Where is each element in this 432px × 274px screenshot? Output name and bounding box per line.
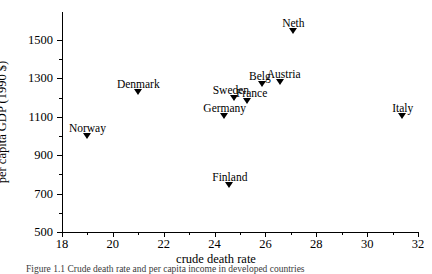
y-tick-minor	[59, 213, 62, 214]
y-tick	[57, 78, 62, 79]
x-tick-minor	[393, 232, 394, 235]
data-point-label: France	[236, 88, 267, 100]
y-tick	[57, 194, 62, 195]
x-tick-label: 26	[245, 238, 285, 251]
x-tick-label: 22	[144, 238, 184, 251]
x-tick-minor	[342, 232, 343, 235]
data-point-label: Denmark	[117, 79, 160, 91]
y-tick-minor	[59, 98, 62, 99]
x-tick-label: 30	[347, 238, 387, 251]
data-point-label: Finland	[212, 172, 247, 184]
x-tick-minor	[189, 232, 190, 235]
data-point-label: Neth	[282, 18, 304, 30]
figure-caption: Figure 1.1 Crude death rate and per capi…	[26, 264, 422, 274]
x-tick-label: 28	[296, 238, 336, 251]
y-tick-label: 1500	[28, 34, 53, 47]
data-point-label: Germany	[203, 103, 246, 115]
y-tick-label: 700	[34, 188, 53, 201]
y-tick	[57, 117, 62, 118]
x-tick-label: 24	[195, 238, 235, 251]
data-point-label: Norway	[69, 123, 106, 135]
y-tick-label: 500	[34, 226, 53, 239]
x-tick-minor	[87, 232, 88, 235]
x-tick-label: 20	[93, 238, 133, 251]
y-tick-label: 1100	[28, 111, 53, 124]
y-tick-label: 900	[34, 149, 53, 162]
y-tick-label: 1300	[28, 72, 53, 85]
data-point-label: Austria	[267, 69, 301, 81]
scatter-plot: 500700900110013001500 1820222426283032 N…	[0, 0, 432, 274]
x-tick-minor	[291, 232, 292, 235]
y-tick-minor	[59, 136, 62, 137]
y-tick	[57, 40, 62, 41]
x-tick-minor	[138, 232, 139, 235]
data-point-label: Italy	[392, 103, 413, 115]
x-tick-minor	[240, 232, 241, 235]
y-tick	[57, 155, 62, 156]
y-tick-minor	[59, 174, 62, 175]
y-tick-minor	[59, 59, 62, 60]
x-tick-label: 18	[42, 238, 82, 251]
y-axis-title-text: per capita GDP (1990 $)	[0, 61, 9, 183]
y-axis-title: per capita GDP (1990 $)	[0, 0, 9, 122]
y-axis-line	[62, 12, 63, 232]
figure-container: 500700900110013001500 1820222426283032 N…	[0, 0, 432, 274]
x-tick-label: 32	[398, 238, 432, 251]
